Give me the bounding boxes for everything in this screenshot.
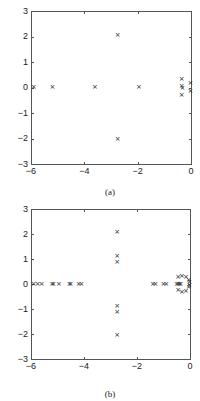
x-tick-mark xyxy=(84,162,85,165)
x-marker-icon: × xyxy=(78,281,85,288)
figure-caption: (b) xyxy=(10,389,200,399)
x-tick-label: −6 xyxy=(21,362,41,371)
x-marker-icon: × xyxy=(114,259,121,266)
x-marker-icon: × xyxy=(114,229,121,236)
x-tick-label: 0 xyxy=(181,167,200,176)
y-tick-label: 3 xyxy=(12,7,28,16)
x-marker-icon: × xyxy=(92,84,99,91)
y-tick-mark xyxy=(189,37,192,38)
y-tick-mark xyxy=(31,334,34,335)
x-tick-mark xyxy=(31,162,32,165)
y-tick-label: −1 xyxy=(12,109,28,118)
x-marker-icon: × xyxy=(163,281,170,288)
x-marker-icon: × xyxy=(178,92,185,99)
x-marker-icon: × xyxy=(152,281,159,288)
x-tick-mark xyxy=(31,357,32,360)
x-marker-icon: × xyxy=(114,309,121,316)
x-tick-mark xyxy=(138,11,139,14)
y-tick-mark xyxy=(31,37,34,38)
x-tick-mark xyxy=(31,209,32,212)
x-tick-mark xyxy=(191,11,192,14)
y-tick-mark xyxy=(188,259,191,260)
x-tick-mark xyxy=(84,11,85,14)
x-tick-mark xyxy=(84,209,85,212)
figure-caption: (a) xyxy=(10,187,200,197)
x-tick-mark xyxy=(191,162,192,165)
x-marker-icon: × xyxy=(67,281,74,288)
x-marker-icon: × xyxy=(55,281,62,288)
x-tick-label: −2 xyxy=(127,362,147,371)
y-tick-mark xyxy=(31,139,34,140)
y-tick-label: 1 xyxy=(12,58,28,67)
x-tick-mark xyxy=(138,162,139,165)
y-tick-mark xyxy=(189,113,192,114)
y-tick-label: 0 xyxy=(12,280,28,289)
y-tick-label: −2 xyxy=(12,330,28,339)
x-tick-label: 0 xyxy=(180,362,200,371)
x-marker-icon: × xyxy=(186,282,193,289)
y-tick-mark xyxy=(31,113,34,114)
y-tick-mark xyxy=(188,334,191,335)
x-marker-icon: × xyxy=(30,84,37,91)
y-tick-mark xyxy=(31,259,34,260)
x-tick-mark xyxy=(190,209,191,212)
x-marker-icon: × xyxy=(114,332,121,339)
x-tick-label: −4 xyxy=(74,362,94,371)
x-tick-mark xyxy=(84,357,85,360)
x-marker-icon: × xyxy=(49,84,56,91)
x-marker-icon: × xyxy=(187,88,194,95)
y-tick-label: 3 xyxy=(12,205,28,214)
y-tick-mark xyxy=(188,234,191,235)
y-tick-mark xyxy=(189,139,192,140)
x-tick-mark xyxy=(190,357,191,360)
y-tick-label: 0 xyxy=(12,83,28,92)
x-marker-icon: × xyxy=(136,84,143,91)
y-tick-mark xyxy=(31,62,34,63)
x-tick-mark xyxy=(31,11,32,14)
x-tick-mark xyxy=(137,209,138,212)
x-tick-label: −6 xyxy=(21,167,41,176)
y-tick-label: 2 xyxy=(12,32,28,41)
x-marker-icon: × xyxy=(114,136,121,143)
y-tick-mark xyxy=(31,234,34,235)
y-tick-mark xyxy=(31,309,34,310)
y-tick-mark xyxy=(188,309,191,310)
x-tick-label: −4 xyxy=(74,167,94,176)
x-marker-icon: × xyxy=(38,281,45,288)
y-tick-label: 2 xyxy=(12,230,28,239)
y-tick-label: −1 xyxy=(12,305,28,314)
x-tick-label: −2 xyxy=(128,167,148,176)
y-tick-mark xyxy=(189,62,192,63)
x-tick-mark xyxy=(137,357,138,360)
x-marker-icon: × xyxy=(114,32,121,39)
y-tick-label: 1 xyxy=(12,255,28,264)
y-tick-label: −2 xyxy=(12,134,28,143)
